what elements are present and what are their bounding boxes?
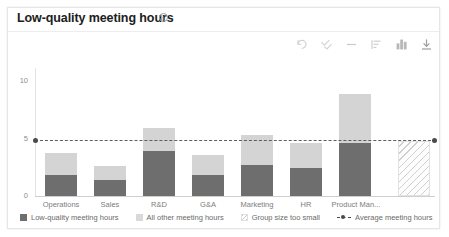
card-header: Low-quality meeting hours i (8, 8, 439, 32)
bar-hr[interactable] (290, 143, 322, 196)
bar-segment-all-other (94, 166, 126, 180)
page-title: Low-quality meeting hours (17, 11, 174, 25)
legend-label: Average meeting hours (355, 213, 432, 222)
legend-label: Low-quality meeting hours (31, 213, 119, 222)
average-line-end-dot (432, 138, 437, 143)
bar-segment-all-other (45, 153, 77, 175)
info-icon[interactable]: i (159, 13, 168, 22)
filter-check-icon[interactable] (319, 37, 333, 51)
legend-item-all-other[interactable]: All other meeting hours (136, 213, 224, 222)
legend-swatch-average (337, 214, 351, 221)
bar-segment-all-other (290, 143, 322, 168)
chart-plot-area: 10 5 0 (8, 56, 441, 204)
bar-operations[interactable] (45, 153, 77, 196)
legend-label: All other meeting hours (147, 213, 224, 222)
y-axis-tick-10: 10 (12, 76, 28, 85)
chart-toolbar (294, 34, 433, 54)
average-line (35, 140, 436, 141)
y-axis-tick-0: 0 (12, 191, 28, 200)
bar-segment-low-quality (94, 180, 126, 196)
reset-icon[interactable] (294, 37, 308, 51)
bar-sales[interactable] (94, 166, 126, 196)
minimize-icon[interactable] (344, 37, 358, 51)
download-icon[interactable] (419, 37, 433, 51)
chart-legend: Low-quality meeting hours All other meet… (8, 208, 441, 226)
bar-segment-low-quality (192, 175, 224, 196)
bar-segment-low-quality (339, 143, 371, 196)
bar-segment-all-other (192, 155, 224, 176)
average-line-start-dot (33, 138, 38, 143)
legend-swatch-group-too-small (241, 214, 248, 221)
legend-item-group-too-small[interactable]: Group size too small (241, 213, 320, 222)
bar-rd[interactable] (143, 128, 175, 196)
y-axis-tick-5: 5 (12, 134, 28, 143)
bar-ga[interactable] (192, 155, 224, 196)
bar-segment-low-quality (290, 168, 322, 196)
bar-segment-low-quality (45, 175, 77, 196)
chart-card: Low-quality meeting hours i 10 5 0 (7, 7, 440, 229)
bar-group-size-too-small[interactable] (398, 141, 430, 196)
bar-product-management[interactable] (339, 94, 371, 196)
legend-item-average[interactable]: Average meeting hours (337, 213, 432, 222)
sort-icon[interactable] (369, 37, 383, 51)
bar-marketing[interactable] (241, 135, 273, 196)
legend-item-low-quality[interactable]: Low-quality meeting hours (20, 213, 119, 222)
bar-segment-low-quality (143, 151, 175, 196)
chart-type-icon[interactable] (394, 37, 408, 51)
x-axis-line (35, 196, 435, 197)
bar-segment-low-quality (241, 165, 273, 196)
legend-swatch-all-other (136, 214, 143, 221)
y-axis-line (35, 68, 36, 196)
legend-swatch-low-quality (20, 214, 27, 221)
bar-segment-all-other (339, 94, 371, 144)
bar-segment-group-too-small (398, 141, 430, 196)
legend-label: Group size too small (252, 213, 320, 222)
